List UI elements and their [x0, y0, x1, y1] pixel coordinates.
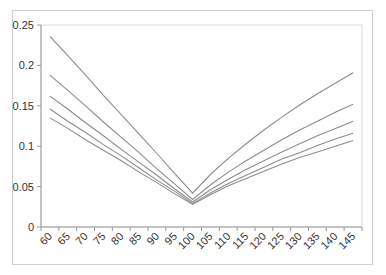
y-axis: 00.050.10.150.20.25: [13, 19, 41, 233]
x-tick-label: 90: [144, 230, 161, 247]
x-tick-label: 140: [318, 230, 339, 251]
x-tick-label: 145: [336, 230, 357, 251]
x-tick-label: 115: [230, 230, 251, 251]
x-tick-label: 135: [300, 230, 321, 251]
y-tick-label: 0.05: [13, 181, 34, 193]
x-tick-label: 65: [55, 230, 72, 247]
x-tick-label: 100: [176, 230, 197, 251]
x-tick-label: 85: [126, 230, 143, 247]
series-line-4: [50, 109, 353, 204]
x-tick-label: 70: [73, 230, 90, 247]
x-tick-label: 80: [109, 230, 126, 247]
x-tick-label: 125: [265, 230, 286, 251]
x-tick-label: 75: [91, 230, 108, 247]
y-tick-label: 0.15: [13, 100, 34, 112]
line-chart: 00.050.10.150.20.25 60657075808590951001…: [0, 0, 386, 275]
y-tick-label: 0.1: [19, 140, 34, 152]
x-tick-label: 60: [37, 230, 54, 247]
x-axis: 6065707580859095100105110115120125130135…: [37, 227, 362, 251]
x-tick-label: 120: [247, 230, 268, 251]
y-tick-label: 0.2: [19, 59, 34, 71]
x-tick-label: 110: [212, 230, 233, 251]
y-tick-label: 0: [28, 221, 34, 233]
series-lines: [50, 36, 353, 204]
x-tick-label: 130: [283, 230, 304, 251]
y-tick-label: 0.25: [13, 19, 34, 31]
series-line-5: [50, 118, 353, 204]
x-tick-label: 105: [193, 230, 214, 251]
series-line-2: [50, 75, 353, 199]
